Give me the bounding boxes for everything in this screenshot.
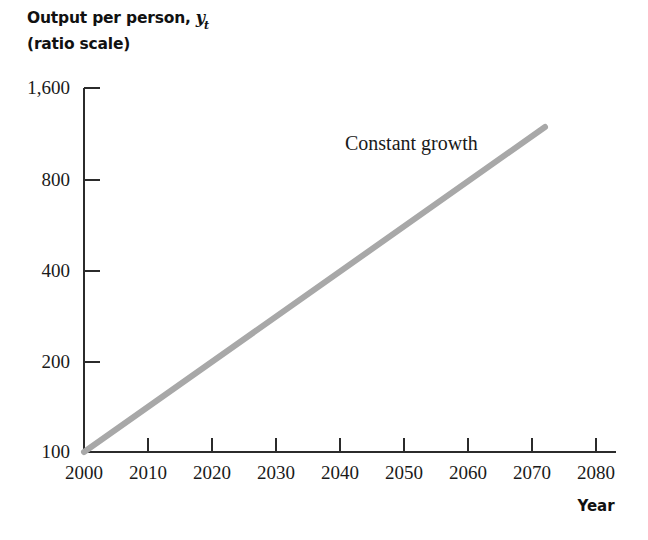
x-axis-ticks bbox=[148, 438, 596, 452]
x-tick-label-2010: 2010 bbox=[129, 462, 167, 484]
x-tick-label-2030: 2030 bbox=[257, 462, 295, 484]
x-tick-label-2000: 2000 bbox=[65, 462, 103, 484]
y-axis-ticks bbox=[84, 88, 100, 362]
y-tick-label-100: 100 bbox=[8, 441, 70, 463]
x-tick-label-2080: 2080 bbox=[577, 462, 615, 484]
chart-figure: Output per person, yt (ratio scale) bbox=[0, 0, 648, 540]
x-tick-label-2040: 2040 bbox=[321, 462, 359, 484]
x-tick-label-2060: 2060 bbox=[449, 462, 487, 484]
plot-area bbox=[0, 0, 648, 540]
x-tick-label-2020: 2020 bbox=[193, 462, 231, 484]
x-tick-label-2050: 2050 bbox=[385, 462, 423, 484]
annotation-constant-growth: Constant growth bbox=[345, 132, 478, 155]
y-tick-label-800: 800 bbox=[8, 169, 70, 191]
series-line-constant-growth bbox=[84, 127, 545, 452]
y-tick-label-200: 200 bbox=[8, 351, 70, 373]
y-tick-label-400: 400 bbox=[8, 260, 70, 282]
y-tick-label-1600: 1,600 bbox=[8, 77, 70, 99]
x-tick-label-2070: 2070 bbox=[513, 462, 551, 484]
x-axis-name: Year bbox=[577, 497, 614, 515]
